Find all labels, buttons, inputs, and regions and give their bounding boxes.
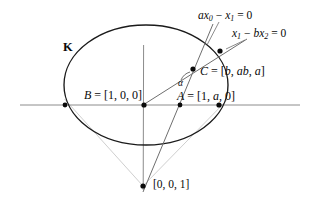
dot-ellipse-left	[63, 103, 68, 108]
cone-ray-left	[65, 99, 144, 186]
label-line2-text: x1 − bx2 = 0	[232, 27, 286, 39]
dot-point-b	[141, 102, 146, 107]
label-point-b: B = [1, 0, 0]	[84, 89, 142, 101]
label-point-c-text: C = [b, ab, a]	[200, 64, 265, 78]
label-conic-k: K	[63, 41, 73, 54]
label-point-a-text: A = [1, a, 0]	[177, 89, 235, 103]
dot-point-c	[190, 66, 195, 71]
label-vertex: [0, 0, 1]	[153, 179, 189, 191]
label-point-b-text: B = [1, 0, 0]	[84, 88, 142, 102]
figure-canvas: ax0 − x1 = 0 x1 − bx2 = 0 K C = [b, ab, …	[0, 0, 328, 205]
label-line1-text: ax0 − x1 = 0	[198, 9, 252, 21]
dot-ellipse-right	[216, 102, 221, 107]
leader-line-2	[226, 40, 245, 49]
cone-ray-right	[143, 99, 228, 186]
label-point-a: A = [1, a, 0]	[177, 90, 235, 102]
label-line-ax0-minus-x1: ax0 − x1 = 0	[198, 10, 252, 22]
cone-rays	[65, 99, 229, 186]
dot-ellipse-upper-right	[217, 48, 222, 53]
dot-vertex	[140, 183, 145, 188]
dot-point-a	[178, 103, 183, 108]
label-point-c: C = [b, ab, a]	[200, 65, 265, 77]
line-ax0-minus-x1	[143, 24, 213, 192]
conic-k	[64, 25, 228, 145]
label-line-x1-minus-bx2: x1 − bx2 = 0	[232, 28, 286, 40]
label-angle-alpha: α	[178, 79, 183, 89]
